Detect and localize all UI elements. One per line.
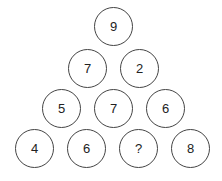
circle-r4-c1: 4 bbox=[15, 129, 54, 168]
circle-r3-c1: 5 bbox=[42, 89, 81, 128]
circle-r4-c4: 8 bbox=[171, 129, 210, 168]
circle-r4-c3-unknown: ? bbox=[119, 129, 158, 168]
circle-r3-c3: 6 bbox=[146, 89, 185, 128]
circle-r2-c2: 2 bbox=[120, 49, 159, 88]
circle-r3-c2: 7 bbox=[94, 89, 133, 128]
circle-r4-c2: 6 bbox=[67, 129, 106, 168]
circle-r2-c1: 7 bbox=[68, 49, 107, 88]
circle-r1-c1: 9 bbox=[94, 7, 133, 46]
